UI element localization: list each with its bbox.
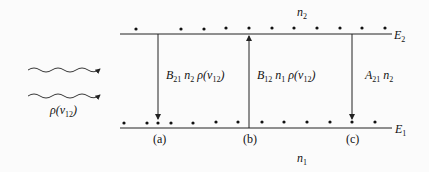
caption-c: (c) bbox=[346, 133, 359, 145]
energy-level-diagram bbox=[0, 0, 429, 172]
rate-label-b: B12 n1 ρ(ν12) bbox=[257, 69, 315, 84]
upper-level-atoms bbox=[134, 26, 386, 30]
caption-b: (b) bbox=[243, 133, 257, 145]
caption-a: (a) bbox=[153, 133, 166, 145]
rate-label-a: B21 n2 ρ(ν12) bbox=[166, 69, 224, 84]
upper-energy-label: E2 bbox=[394, 29, 405, 44]
radiation-density-label: ρ(ν12) bbox=[50, 104, 77, 119]
radiation-wave-1 bbox=[28, 68, 100, 72]
lower-energy-label: E1 bbox=[395, 123, 406, 138]
upper-population-label: n2 bbox=[297, 6, 307, 21]
lower-population-label: n1 bbox=[297, 152, 307, 167]
rate-label-c: A21 n2 bbox=[365, 69, 393, 84]
radiation-wave-2 bbox=[28, 94, 100, 98]
